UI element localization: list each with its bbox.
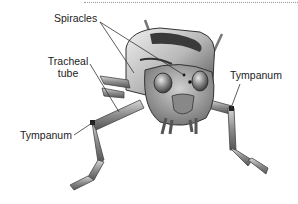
label-spiracles: Spiracles [54, 12, 97, 24]
label-tracheal-line1: Tracheal [44, 55, 92, 67]
leader-tympanum-right [231, 84, 240, 108]
eye-right [192, 71, 208, 91]
label-tympanum-right: Tympanum [230, 69, 282, 81]
hind-leg-left [100, 76, 130, 98]
spiracle-dot-2 [188, 80, 192, 84]
front-leg-left [70, 100, 144, 190]
label-tracheal-line2: tube [44, 67, 92, 79]
leader-tracheal [90, 64, 119, 112]
label-tracheal-tube: Tracheal tube [44, 55, 92, 79]
head [145, 64, 214, 134]
front-leg-right [208, 100, 268, 174]
label-tympanum-left: Tympanum [20, 129, 72, 141]
eye-left [154, 73, 172, 93]
insect-illustration [0, 0, 298, 204]
leader-tympanum-left [74, 123, 92, 135]
